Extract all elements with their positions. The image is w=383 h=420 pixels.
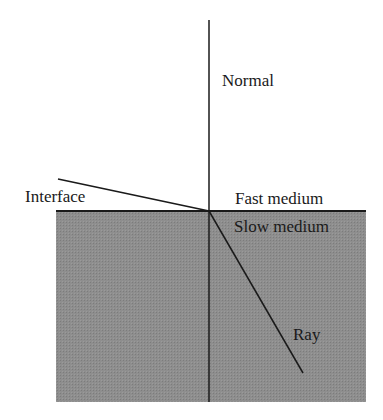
normal-label: Normal: [222, 72, 274, 89]
diagram-graphics: [0, 0, 383, 420]
ray-label: Ray: [293, 326, 320, 343]
slow-medium-region: [56, 210, 366, 402]
refraction-diagram: Normal Interface Fast medium Slow medium…: [0, 0, 383, 420]
slow-medium-label: Slow medium: [234, 218, 329, 235]
interface-label: Interface: [25, 188, 85, 205]
fast-medium-label: Fast medium: [235, 190, 323, 207]
